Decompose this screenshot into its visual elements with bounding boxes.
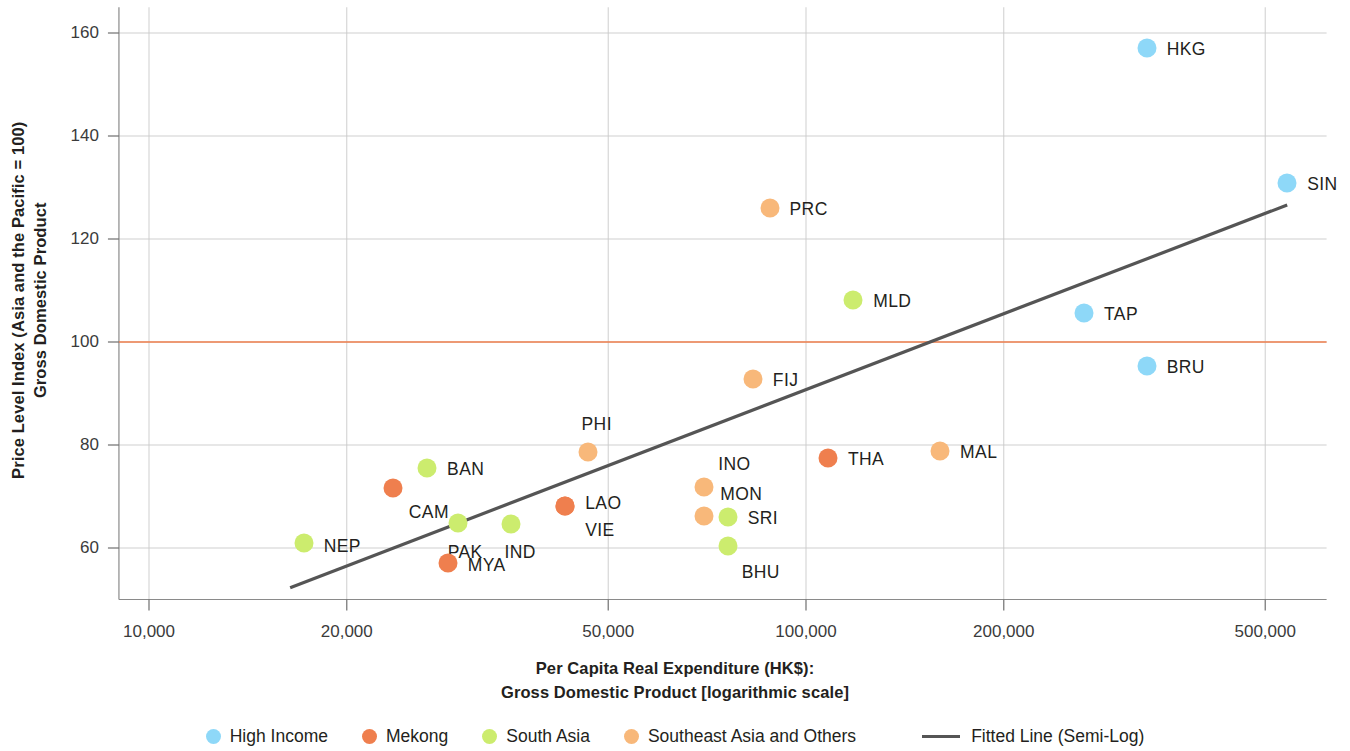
data-point-hkg[interactable] <box>1137 39 1156 58</box>
data-point-sri[interactable] <box>718 507 737 526</box>
legend-line-swatch <box>922 735 960 738</box>
data-point-label-ino: INO <box>718 453 750 474</box>
data-point-label-bhu: BHU <box>742 561 780 582</box>
data-point-mld[interactable] <box>844 290 863 309</box>
legend-label: Mekong <box>386 726 448 747</box>
y-axis-tick-label: 100 <box>39 332 99 352</box>
x-axis-tick-label: 500,000 <box>1205 622 1325 642</box>
data-point-label-tap: TAP <box>1104 304 1138 325</box>
y-axis-tick-label: 160 <box>39 23 99 43</box>
data-point-label-hkg: HKG <box>1167 39 1206 60</box>
data-point-prc[interactable] <box>760 199 779 218</box>
data-point-tap[interactable] <box>1075 304 1094 323</box>
y-axis-tick-label: 140 <box>39 126 99 146</box>
y-axis-tick-label: 80 <box>39 435 99 455</box>
data-point-label-lao: LAO <box>585 492 621 513</box>
legend-dot-swatch <box>624 729 639 744</box>
data-point-pak[interactable] <box>448 513 467 532</box>
data-point-mon[interactable] <box>695 506 714 525</box>
data-point-label-tha: THA <box>848 449 884 470</box>
x-axis-tick-label: 10,000 <box>89 622 209 642</box>
legend-dot-swatch <box>482 729 497 744</box>
legend-item-south-asia[interactable]: South Asia <box>482 726 590 747</box>
data-point-ban[interactable] <box>418 458 437 477</box>
x-axis-tick-label: 50,000 <box>548 622 668 642</box>
plot-area: 608010012014016010,00020,00050,000100,00… <box>0 0 1350 751</box>
data-point-fij[interactable] <box>743 370 762 389</box>
legend-item-mekong[interactable]: Mekong <box>362 726 448 747</box>
y-axis-tick-label: 120 <box>39 229 99 249</box>
data-point-label-vie: VIE <box>585 519 614 540</box>
x-axis-title-line2: Gross Domestic Product [logarithmic scal… <box>0 681 1350 705</box>
chart-legend: High IncomeMekongSouth AsiaSoutheast Asi… <box>0 726 1350 747</box>
x-axis-tick-label: 100,000 <box>746 622 866 642</box>
legend-item-high-income[interactable]: High Income <box>206 726 328 747</box>
data-point-mya[interactable] <box>438 554 457 573</box>
data-point-ind[interactable] <box>501 515 520 534</box>
x-axis-tick-label: 200,000 <box>944 622 1064 642</box>
data-point-label-mon: MON <box>720 483 762 504</box>
data-point-cam[interactable] <box>383 478 402 497</box>
data-point-label-cam: CAM <box>409 501 449 522</box>
price-level-index-scatter-chart: Price Level Index (Asia and the Pacific … <box>0 0 1350 751</box>
legend-label: Southeast Asia and Others <box>648 726 856 747</box>
legend-label: High Income <box>230 726 328 747</box>
data-point-label-mal: MAL <box>960 441 997 462</box>
legend-label: South Asia <box>506 726 590 747</box>
legend-dot-swatch <box>362 729 377 744</box>
data-point-phi[interactable] <box>578 443 597 462</box>
data-point-bru[interactable] <box>1137 356 1156 375</box>
data-point-vie[interactable] <box>556 496 575 515</box>
x-axis-title: Per Capita Real Expenditure (HK$): Gross… <box>0 657 1350 705</box>
legend-item-fitted-line-semi-log[interactable]: Fitted Line (Semi-Log) <box>922 726 1144 747</box>
legend-label: Fitted Line (Semi-Log) <box>971 726 1144 747</box>
data-point-label-mya: MYA <box>468 555 506 576</box>
x-axis-tick-label: 20,000 <box>287 622 407 642</box>
legend-item-southeast-asia-and-others[interactable]: Southeast Asia and Others <box>624 726 856 747</box>
data-point-label-prc: PRC <box>790 199 828 220</box>
data-point-label-phi: PHI <box>582 414 612 435</box>
data-point-label-sri: SRI <box>748 507 778 528</box>
data-point-label-mld: MLD <box>873 290 911 311</box>
data-point-label-sin: SIN <box>1307 174 1337 195</box>
x-axis-title-line1: Per Capita Real Expenditure (HK$): <box>0 657 1350 681</box>
legend-dot-swatch <box>206 729 221 744</box>
data-point-label-ban: BAN <box>447 458 484 479</box>
data-point-sin[interactable] <box>1278 174 1297 193</box>
data-point-label-nep: NEP <box>324 536 361 557</box>
data-point-ino[interactable] <box>695 477 714 496</box>
data-point-label-bru: BRU <box>1167 356 1205 377</box>
fitted-line <box>290 205 1287 588</box>
y-axis-tick-label: 60 <box>39 538 99 558</box>
data-point-bhu[interactable] <box>718 536 737 555</box>
data-point-nep[interactable] <box>294 534 313 553</box>
data-point-tha[interactable] <box>818 449 837 468</box>
data-point-label-ind: IND <box>505 542 536 563</box>
data-point-mal[interactable] <box>931 441 950 460</box>
data-point-label-fij: FIJ <box>773 370 799 391</box>
